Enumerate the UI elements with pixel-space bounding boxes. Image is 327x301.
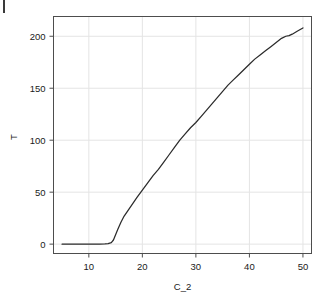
line-chart-canvas: 1020304050 050100150200 C_2 T bbox=[0, 0, 327, 301]
x-tick-label: 40 bbox=[244, 261, 255, 272]
y-tick-label: 150 bbox=[30, 83, 46, 94]
y-axis-label: T bbox=[8, 134, 19, 140]
page-crop-mark bbox=[3, 0, 5, 13]
y-tick-label: 200 bbox=[30, 31, 46, 42]
x-axis-label: C_2 bbox=[174, 281, 191, 292]
x-tick-label: 50 bbox=[298, 261, 309, 272]
y-tick-label: 50 bbox=[35, 187, 46, 198]
y-tick-label: 0 bbox=[40, 239, 45, 250]
x-tick-label: 20 bbox=[137, 261, 148, 272]
x-tick-label: 30 bbox=[191, 261, 202, 272]
y-tick-label: 100 bbox=[30, 135, 46, 146]
x-tick-label: 10 bbox=[84, 261, 95, 272]
chart-figure: 1020304050 050100150200 C_2 T bbox=[0, 0, 327, 301]
chart-background bbox=[0, 0, 327, 301]
